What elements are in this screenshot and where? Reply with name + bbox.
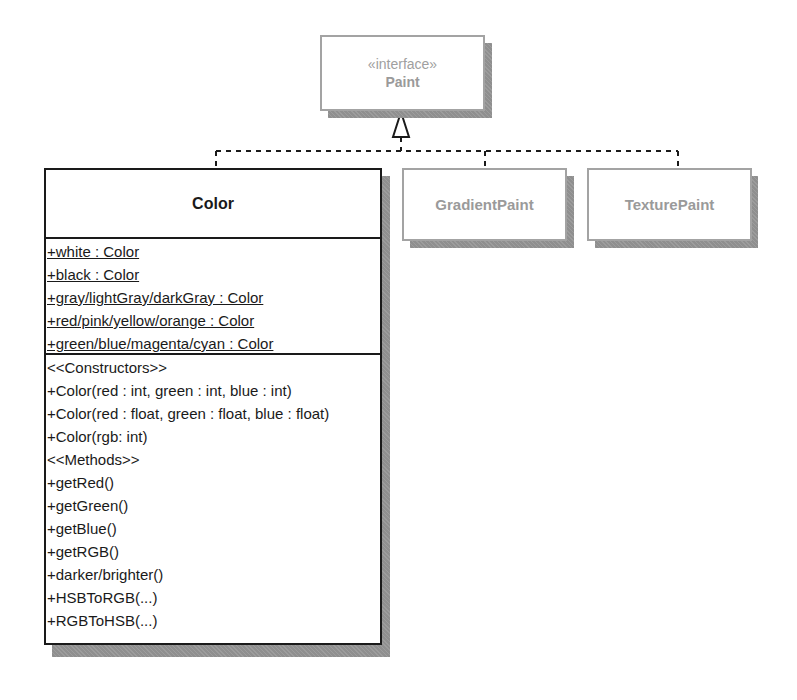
texturepaint-class-box[interactable]: TexturePaint [587, 168, 752, 241]
constructors-stereotype: <<Constructors>> [47, 356, 380, 379]
texturepaint-class-name: TexturePaint [589, 170, 750, 239]
constructor-rgb: +Color(rgb: int) [47, 425, 380, 448]
method-darker-brighter: +darker/brighter() [47, 563, 380, 586]
gradientpaint-class-box[interactable]: GradientPaint [402, 168, 567, 241]
interface-name: Paint [385, 73, 419, 91]
color-operations-section: <<Constructors>> +Color(red : int, green… [46, 355, 380, 632]
method-rgbtohsb: +RGBToHSB(...) [47, 609, 380, 632]
uml-diagram-canvas: «interface» Paint GradientPaint TextureP… [0, 0, 797, 700]
methods-stereotype: <<Methods>> [47, 448, 380, 471]
method-getred: +getRed() [47, 471, 380, 494]
attribute-grays: +gray/lightGray/darkGray : Color [47, 286, 380, 309]
method-hsbtorgb: +HSBToRGB(...) [47, 586, 380, 609]
color-attributes-section: +white : Color +black : Color +gray/ligh… [46, 239, 380, 355]
paint-interface-box[interactable]: «interface» Paint [320, 35, 485, 111]
attribute-black: +black : Color [47, 263, 380, 286]
color-class-name: Color [46, 170, 380, 239]
attribute-warm-colors: +red/pink/yellow/orange : Color [47, 309, 380, 332]
interface-stereotype: «interface» [368, 55, 437, 73]
constructor-int: +Color(red : int, green : int, blue : in… [47, 379, 380, 402]
attribute-white: +white : Color [47, 240, 380, 263]
paint-interface-title: «interface» Paint [322, 37, 483, 109]
gradientpaint-class-name: GradientPaint [404, 170, 565, 239]
method-getrgb: +getRGB() [47, 540, 380, 563]
method-getblue: +getBlue() [47, 517, 380, 540]
constructor-float: +Color(red : float, green : float, blue … [47, 402, 380, 425]
method-getgreen: +getGreen() [47, 494, 380, 517]
color-class-box[interactable]: Color +white : Color +black : Color +gra… [44, 168, 382, 645]
attribute-cool-colors: +green/blue/magenta/cyan : Color [47, 332, 380, 355]
